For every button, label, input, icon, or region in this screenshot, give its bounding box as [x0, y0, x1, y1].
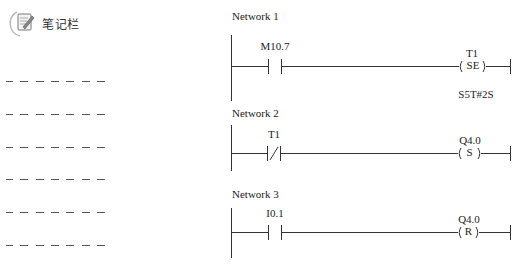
- contact-nc-slash: [270, 147, 278, 160]
- coil-parameter: S5T#2S: [448, 88, 504, 100]
- network-1-label: Network 1: [232, 10, 279, 22]
- contact-address: T1: [254, 128, 294, 140]
- coil-type: SE: [462, 59, 484, 71]
- network-2-label: Network 2: [232, 107, 279, 119]
- coil-address: Q4.0: [449, 213, 489, 225]
- coil-type: R: [461, 225, 476, 237]
- coil-address: T1: [452, 47, 492, 59]
- coil-address: Q4.0: [450, 134, 490, 146]
- contact-address: M10.7: [255, 40, 295, 52]
- network-3-label: Network 3: [232, 188, 279, 200]
- contact-address: I0.1: [255, 207, 295, 219]
- coil-type: S: [461, 146, 478, 158]
